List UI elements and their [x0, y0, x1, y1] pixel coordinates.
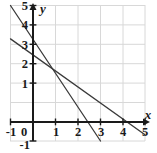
y-tick-label--1: -1 — [20, 138, 30, 152]
x-tick-label-3: 3 — [98, 125, 104, 139]
plot-area: -1 0 1 2 3 4 5 5 4 3 2 1 -1 y x — [0, 0, 157, 153]
x-axis-label: x — [144, 107, 152, 122]
y-tick-label-5: 5 — [22, 0, 28, 13]
coordinate-grid-chart: -1 0 1 2 3 4 5 5 4 3 2 1 -1 y x — [0, 0, 157, 153]
x-tick-label-4: 4 — [120, 125, 127, 139]
y-tick-label-3: 3 — [22, 38, 28, 52]
x-tick-label-5: 5 — [142, 125, 148, 139]
x-tick-label--1: -1 — [6, 125, 16, 139]
y-axis-label: y — [38, 1, 46, 16]
y-tick-label-1: 1 — [22, 77, 28, 91]
y-tick-label-2: 2 — [22, 57, 28, 71]
x-tick-label-2: 2 — [75, 125, 81, 139]
y-tick-label-4: 4 — [22, 18, 29, 32]
x-tick-label-0: 0 — [21, 125, 27, 139]
x-tick-label-1: 1 — [53, 125, 59, 139]
